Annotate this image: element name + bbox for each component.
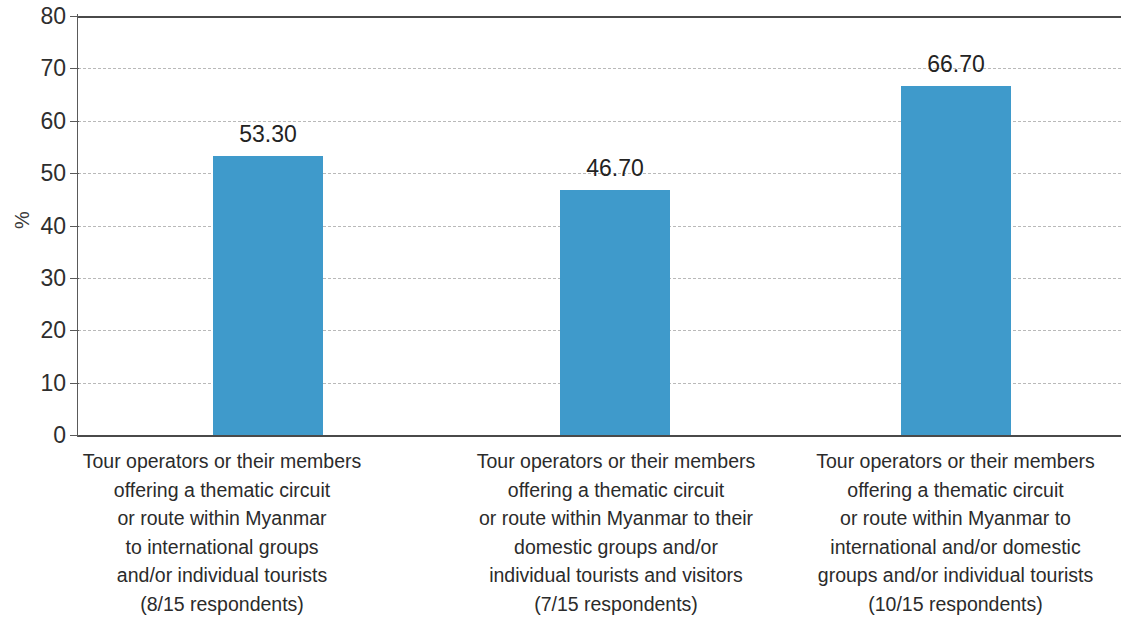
y-tick-mark-70 [70,68,79,69]
y-tick-label-50: 50 [8,162,66,185]
y-tick-label-70: 70 [8,57,66,80]
y-tick-mark-20 [70,330,79,331]
plot-area: 53.3046.7066.70 [78,16,1121,435]
category-label-3-line-1: Tour operators or their members [790,447,1121,476]
category-label-2-line-1: Tour operators or their members [430,447,802,476]
category-label-3-line-6: (10/15 respondents) [790,590,1121,619]
category-label-3-line-2: offering a thematic circuit [790,476,1121,505]
y-axis-tick-labels: 01020304050607080 [0,0,66,450]
y-tick-label-0: 0 [8,424,66,447]
category-label-1-line-6: (8/15 respondents) [52,590,392,619]
y-tick-mark-40 [70,226,79,227]
bar-value-label-2: 46.70 [535,157,695,180]
category-label-3-line-5: groups and/or individual tourists [790,561,1121,590]
y-tick-mark-80 [70,16,79,17]
bar-value-label-3: 66.70 [876,53,1036,76]
category-label-1-line-1: Tour operators or their members [52,447,392,476]
y-tick-label-10: 10 [8,371,66,394]
category-label-1-line-5: and/or individual tourists [52,561,392,590]
y-tick-mark-50 [70,173,79,174]
y-tick-mark-60 [70,121,79,122]
category-label-1-line-4: to international groups [52,533,392,562]
category-label-3: Tour operators or their membersoffering … [790,447,1121,618]
y-tick-label-30: 30 [8,266,66,289]
category-label-3-line-4: international and/or domestic [790,533,1121,562]
category-label-2: Tour operators or their membersoffering … [430,447,802,618]
category-label-2-line-5: individual tourists and visitors [430,561,802,590]
bar-3[interactable] [901,86,1011,435]
y-tick-label-20: 20 [8,319,66,342]
gridline-0 [78,435,1121,437]
bar-chart-figure: % 01020304050607080 53.3046.7066.70 Tour… [0,0,1121,626]
x-axis-category-labels: Tour operators or their membersoffering … [0,447,1121,626]
category-label-2-line-4: domestic groups and/or [430,533,802,562]
y-tick-label-40: 40 [8,214,66,237]
category-label-2-line-2: offering a thematic circuit [430,476,802,505]
y-tick-mark-10 [70,383,79,384]
y-tick-mark-0 [70,435,79,436]
category-label-2-line-6: (7/15 respondents) [430,590,802,619]
y-tick-mark-30 [70,278,79,279]
bar-2[interactable] [560,190,670,435]
y-tick-label-80: 80 [8,5,66,28]
category-label-1-line-2: offering a thematic circuit [52,476,392,505]
category-label-2-line-3: or route within Myanmar to their [430,504,802,533]
bar-value-label-1: 53.30 [188,123,348,146]
category-label-1-line-3: or route within Myanmar [52,504,392,533]
gridline-80 [78,16,1121,18]
bar-1[interactable] [213,156,323,435]
category-label-3-line-3: or route within Myanmar to [790,504,1121,533]
category-label-1: Tour operators or their membersoffering … [52,447,392,618]
y-tick-label-60: 60 [8,109,66,132]
